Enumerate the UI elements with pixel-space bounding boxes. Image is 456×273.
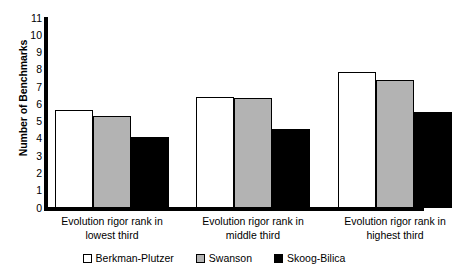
x-category-label: Evolution rigor rank inmiddle third (188, 214, 318, 242)
y-tick-label: 0 (20, 203, 42, 214)
y-tick-label: 11 (20, 13, 42, 24)
x-category-label-line: highest third (330, 228, 456, 242)
bar-group (55, 18, 169, 208)
y-tick-label: 5 (20, 116, 42, 127)
y-tick-label: 10 (20, 30, 42, 41)
bar-berkman-plutzer[interactable] (55, 110, 93, 208)
y-tick-label: 8 (20, 64, 42, 75)
bar-swanson[interactable] (234, 98, 272, 208)
legend-swatch-icon (83, 254, 92, 263)
bar-berkman-plutzer[interactable] (196, 97, 234, 208)
bar-skoog-bilica[interactable] (131, 137, 169, 208)
y-tick-label: 3 (20, 151, 42, 162)
y-tick-label: 7 (20, 82, 42, 93)
y-tick-label: 9 (20, 47, 42, 58)
bar-skoog-bilica[interactable] (272, 129, 310, 208)
x-category-label-line: middle third (188, 228, 318, 242)
plot-area (48, 18, 422, 208)
x-category-label-line: Evolution rigor rank in (330, 214, 456, 228)
bar-berkman-plutzer[interactable] (338, 72, 376, 208)
y-tick-label: 1 (20, 185, 42, 196)
legend-item[interactable]: Berkman-Plutzer (83, 252, 174, 264)
legend-swatch-icon (196, 254, 205, 263)
legend-item[interactable]: Swanson (196, 252, 252, 264)
bar-swanson[interactable] (93, 116, 131, 208)
legend-item[interactable]: Skoog-Bilica (274, 252, 345, 264)
x-category-label: Evolution rigor rank inhighest third (330, 214, 456, 242)
legend-label: Berkman-Plutzer (96, 252, 174, 264)
legend-swatch-icon (274, 254, 283, 263)
legend-label: Swanson (209, 252, 252, 264)
bar-group (196, 18, 310, 208)
x-category-label-line: Evolution rigor rank in (47, 214, 177, 228)
x-category-label-line: lowest third (47, 228, 177, 242)
bar-swanson[interactable] (376, 80, 414, 208)
y-tick-label: 6 (20, 99, 42, 110)
x-category-label: Evolution rigor rank inlowest third (47, 214, 177, 242)
bar-skoog-bilica[interactable] (414, 112, 452, 208)
legend-label: Skoog-Bilica (287, 252, 345, 264)
x-category-label-line: Evolution rigor rank in (188, 214, 318, 228)
chart-legend: Berkman-PlutzerSwansonSkoog-Bilica (0, 252, 428, 264)
y-tick-label: 2 (20, 168, 42, 179)
y-tick-label: 4 (20, 133, 42, 144)
bar-group (338, 18, 452, 208)
y-axis-tick-labels: 11109876543210 (14, 0, 42, 273)
